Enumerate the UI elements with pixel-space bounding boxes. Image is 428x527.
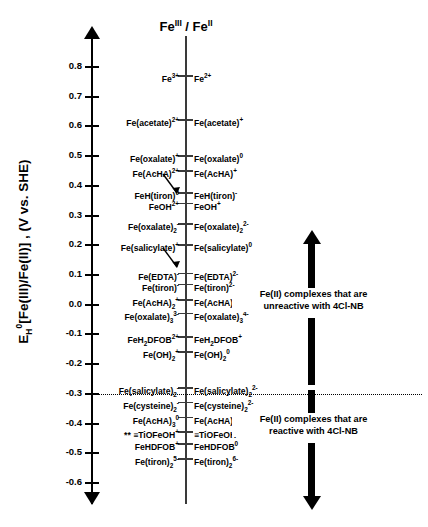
oxidized-species-label: FeOH2+ [149, 198, 179, 213]
y-tick [85, 215, 99, 217]
oxidized-species-label: Fe(OH)2+ [143, 346, 179, 364]
y-tick-label: -0.5 [42, 447, 82, 457]
species-tick [178, 119, 193, 121]
y-tick-label: 0.6 [42, 120, 82, 130]
species-tick [178, 417, 193, 419]
y-tick-label-text: -0.4 [44, 418, 82, 427]
species-tick [178, 244, 193, 246]
reactive-arrow-shaft-bottom [308, 443, 315, 498]
reactive-arrow-head [303, 496, 321, 510]
reactive-arrow-shaft-top [308, 390, 315, 415]
species-tick [178, 203, 193, 205]
oxidized-species-label: Fe(tiron)25- [135, 453, 179, 471]
y-tick-label: -0.6 [42, 477, 82, 487]
reduced-species-label: Fe(AcHA)+ [194, 165, 237, 180]
y-tick [85, 423, 99, 425]
reduced-species-label: Fe(acetate)+ [194, 114, 243, 129]
y-tick-label: 0.2 [42, 239, 82, 249]
y-tick-label: -0.2 [42, 358, 82, 368]
species-tick [178, 155, 193, 157]
unreactive-caption: Fe(II) complexes that are unreactive wit… [232, 288, 395, 312]
y-tick-label: 0.7 [42, 91, 82, 101]
y-axis-line [91, 36, 93, 504]
header-sup-iii: III [175, 18, 182, 28]
reduced-species-label: FeOH+ [194, 198, 221, 213]
y-tick-label-text: 0.0 [44, 299, 82, 308]
y-tick [85, 333, 99, 335]
header-fe3: Fe [159, 19, 174, 34]
y-tick-label-text: 0.2 [44, 239, 82, 248]
unreactive-arrow-shaft-top [308, 243, 315, 289]
y-tick [85, 304, 99, 306]
unreactive-arrow-head [303, 230, 321, 244]
reduced-species-label: Fe(salicylate)0 [194, 239, 252, 254]
species-tick [178, 387, 193, 389]
y-tick-label: -0.3 [42, 388, 82, 398]
y-axis-title: EH0[Fe(III)/Fe(II)] , (V vs. SHE) [14, 52, 33, 452]
y-tick-label-text: -0.1 [44, 328, 82, 337]
y-tick-label-text: 0.3 [44, 210, 82, 219]
species-tick [178, 402, 193, 404]
oxidized-species-label: FeHDFOB+ [135, 438, 179, 453]
y-axis-title-rest: [Fe(III)/Fe(II)] , (V vs. SHE) [16, 160, 31, 324]
species-tick [178, 75, 193, 77]
reactive-caption-line2: reactive with 4Cl-NB [232, 425, 395, 437]
y-tick [85, 363, 99, 365]
y-tick-label-text: 0.5 [44, 150, 82, 159]
oxidized-species-label: Fe3+ [162, 70, 179, 85]
reduced-species-label: FeHDFOB0 [194, 438, 238, 453]
y-tick-label: 0.0 [42, 299, 82, 309]
y-axis-title-sup: 0 [14, 324, 24, 329]
reactivity-threshold-line [92, 394, 422, 395]
y-tick [85, 125, 99, 127]
couple-header: FeIII / FeII [120, 18, 252, 34]
y-tick [85, 185, 99, 187]
y-tick [85, 452, 99, 454]
y-tick-label-text: -0.3 [44, 388, 82, 397]
y-axis-arrow-down [84, 492, 100, 505]
y-tick-label-text: 0.6 [44, 120, 82, 129]
species-tick [178, 170, 193, 172]
species-tick [178, 313, 193, 315]
header-separator: / Fe [182, 19, 208, 34]
y-tick [85, 66, 99, 68]
y-tick-label: 0.3 [42, 210, 82, 220]
unreactive-caption-line2: unreactive with 4Cl-NB [232, 300, 395, 312]
y-tick-label-text: -0.6 [44, 477, 82, 486]
y-tick-label-text: 0.1 [44, 269, 82, 278]
header-sup-ii: II [208, 18, 213, 28]
y-tick-label: 0.8 [42, 61, 82, 71]
species-tick [178, 431, 193, 433]
oxidized-species-label: Fe(tiron)- [142, 279, 179, 294]
reduced-species-label: Fe(tiron)26- [194, 453, 238, 471]
species-tick [178, 273, 193, 275]
reactive-caption-line1: Fe(II) complexes that are [232, 413, 395, 425]
y-tick-label: -0.1 [42, 328, 82, 338]
reduced-species-label: Fe(tiron)2- [194, 279, 235, 294]
species-tick [178, 299, 193, 301]
species-tick [178, 443, 193, 445]
species-tick [178, 336, 193, 338]
y-tick-label-text: 0.7 [44, 91, 82, 100]
oxidized-species-label: Fe(oxalate)+ [130, 150, 179, 165]
reduced-species-label: Fe2+ [194, 70, 211, 85]
reduced-species-label: Fe(oxalate)0 [194, 150, 243, 165]
reduced-species-label: Fe(OH)20 [194, 346, 230, 364]
species-tick [178, 458, 193, 460]
species-tick [178, 351, 193, 353]
y-tick [85, 96, 99, 98]
y-axis-title-e: E [16, 335, 31, 344]
y-axis-title-sub: H [24, 329, 34, 335]
y-tick [85, 155, 99, 157]
y-tick-label: 0.4 [42, 180, 82, 190]
redox-potential-figure: 0.80.70.60.50.40.30.20.10.0-0.1-0.2-0.3-… [0, 0, 428, 527]
species-tick [178, 284, 193, 286]
y-tick [85, 244, 99, 246]
y-tick-label: 0.1 [42, 269, 82, 279]
species-tick [178, 192, 193, 194]
y-tick-label-text: 0.4 [44, 180, 82, 189]
y-tick-label-text: -0.5 [44, 447, 82, 456]
oxidized-species-label: Fe(acetate)2+ [126, 114, 179, 129]
unreactive-caption-line1: Fe(II) complexes that are [232, 288, 395, 300]
reactive-caption: Fe(II) complexes that are reactive with … [232, 413, 395, 437]
